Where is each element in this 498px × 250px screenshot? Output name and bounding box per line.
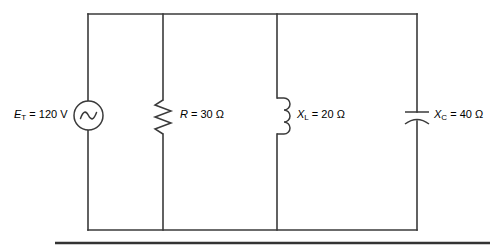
capacitor-value: 40 bbox=[460, 108, 472, 120]
resistor-unit: Ω bbox=[216, 108, 224, 120]
capacitor-unit: Ω bbox=[475, 108, 483, 120]
source-equals: = bbox=[26, 108, 39, 120]
resistor-zigzag-icon bbox=[155, 100, 171, 134]
source-unit: V bbox=[60, 108, 67, 120]
inductor-coil-icon bbox=[277, 98, 290, 134]
circuit-schematic bbox=[0, 0, 498, 250]
inductor-value: 20 bbox=[321, 108, 333, 120]
source-value: 120 bbox=[39, 108, 57, 120]
source-label: ET = 120 V bbox=[14, 109, 68, 122]
capacitor-label: XC = 40 Ω bbox=[434, 109, 483, 122]
circuit-diagram-figure: ET = 120 V R = 30 Ω XL = 20 Ω XC = 40 Ω bbox=[0, 0, 498, 250]
ac-voltage-source-icon bbox=[74, 101, 103, 130]
resistor-value: 30 bbox=[201, 108, 213, 120]
resistor-equals: = bbox=[188, 108, 201, 120]
resistor-symbol: R bbox=[180, 108, 188, 120]
inductor-equals: = bbox=[309, 108, 322, 120]
capacitor-equals: = bbox=[447, 108, 460, 120]
inductor-unit: Ω bbox=[337, 108, 345, 120]
resistor-label: R = 30 Ω bbox=[180, 109, 224, 120]
inductor-label: XL = 20 Ω bbox=[297, 109, 345, 122]
